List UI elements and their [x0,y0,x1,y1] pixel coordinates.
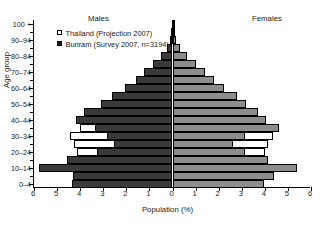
y-axis-tick-label: 10–14 [11,165,31,172]
x-axis-tick-labels: 6543210123456 [0,190,335,202]
y-axis-tick [30,32,34,33]
bar-br-male [84,108,173,116]
bar-br-male [161,52,173,60]
x-axis-tick-label: 2 [118,190,132,198]
y-axis-title: Age group [2,52,11,88]
bar-br-female [173,180,264,188]
y-axis-tick-label: 60–64 [11,85,31,92]
bar-br-female [173,100,247,108]
y-axis-tick-label: 80–84 [11,53,31,60]
y-axis-tick-label: 30–34 [11,133,31,140]
bar-br-female [173,84,225,92]
plot-area [33,20,310,188]
bar-br-female [173,60,196,68]
y-axis-tick-labels: 0–410–1420–2430–3440–4450–5460–6470–7480… [0,20,31,188]
bar-br-male [72,180,172,188]
bar-br-male [73,172,172,180]
x-axis-tick-label: 5 [49,190,63,198]
y-axis-tick [29,88,34,89]
bar-br-male [97,148,172,156]
bar-br-male [112,92,172,100]
y-axis-tick [29,152,34,153]
y-axis-tick [30,144,34,145]
zero-axis-line [173,20,174,187]
y-axis-tick [30,48,34,49]
x-axis-tick-label: 6 [303,190,317,198]
x-axis-title: Population (%) [0,205,335,214]
x-axis-tick-label: 2 [211,190,225,198]
bar-br-male [153,60,173,68]
bar-br-male [136,76,173,84]
bar-br-female [173,124,279,132]
y-axis-tick [29,40,34,41]
bar-br-male [95,124,172,132]
bar-br-male [125,84,172,92]
y-axis-tick [29,168,34,169]
bar-br-male [144,68,173,76]
y-axis-tick-label: 40–44 [11,117,31,124]
bar-br-female [173,92,238,100]
bar-br-female [173,172,275,180]
bar-br-male [101,100,173,108]
x-axis-tick-label: 6 [26,190,40,198]
bar-br-female [173,164,298,172]
x-axis-tick-label: 4 [257,190,271,198]
bar-br-female [173,116,266,124]
bar-br-female [173,148,246,156]
y-axis-tick [30,176,34,177]
bar-br-male [114,140,173,148]
bar-br-female [173,140,233,148]
population-pyramid-figure: Males Females Thailand (Projection 2007)… [0,0,335,227]
y-axis-tick [29,136,34,137]
y-axis-tick-label: 50–54 [11,101,31,108]
y-axis-tick [29,56,34,57]
bar-br-male [67,156,172,164]
y-axis-tick [29,104,34,105]
y-axis-tick [30,80,34,81]
bar-br-female [173,132,246,140]
y-axis-tick [30,112,34,113]
x-axis-tick-label: 3 [234,190,248,198]
x-axis-tick-label: 1 [141,190,155,198]
bar-br-female [173,108,258,116]
y-axis-tick [29,184,34,185]
x-axis-tick-label: 0 [165,190,179,198]
bar-br-male [107,132,173,140]
x-axis-tick-label: 5 [280,190,294,198]
y-axis-tick-label: 90–94 [11,37,31,44]
bar-br-female [173,52,187,60]
y-axis-tick [29,120,34,121]
y-axis-tick [30,160,34,161]
y-axis-tick-label: 70–74 [11,69,31,76]
y-axis-tick [30,128,34,129]
y-axis-tick [29,24,34,25]
y-axis-tick [30,64,34,65]
bar-br-female [173,76,215,84]
bar-br-female [173,156,269,164]
bar-br-female [173,44,180,52]
y-axis-tick [29,72,34,73]
x-axis-tick-label: 3 [95,190,109,198]
bar-br-male [39,164,173,172]
bar-br-female [173,68,205,76]
y-axis-tick-label: 20–24 [11,149,31,156]
x-axis-tick-label: 4 [72,190,86,198]
y-axis-tick [30,96,34,97]
x-axis-tick-label: 1 [188,190,202,198]
bar-br-male [76,116,173,124]
